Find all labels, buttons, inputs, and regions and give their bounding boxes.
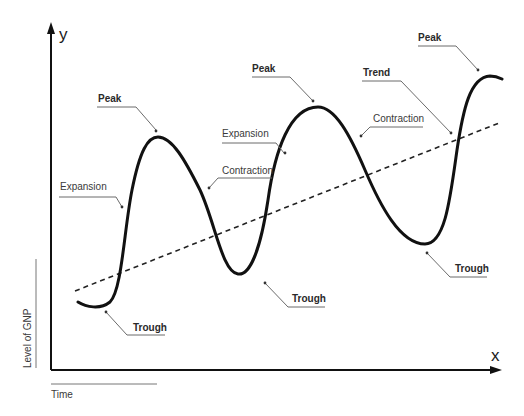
expansion-1-leader [59,197,122,207]
peak-2-label: Peak [252,63,276,74]
expansion-2-leader [222,143,284,153]
contraction-1-leader [209,178,272,188]
trend-line [75,123,499,291]
peak-1-leader [97,107,156,130]
expansion-1-label: Expansion [60,181,107,192]
contraction-2-label: Contraction [373,113,424,124]
x-axis-label: Time [51,389,73,400]
peak-3-marker [477,69,480,72]
trough-1-marker [105,311,108,314]
peak-3-label: Peak [418,32,442,43]
expansion-1-marker [121,206,124,209]
trough-3-label: Trough [455,263,489,274]
peak-2-marker [312,100,315,103]
gnp-cycle-curve [78,76,502,307]
peak-1-label: Peak [98,93,122,104]
contraction-2-leader [361,127,423,136]
contraction-1-label: Contraction [222,165,273,176]
y-axis-letter: y [59,25,68,44]
expansion-2-label: Expansion [222,128,269,139]
trough-2-marker [264,282,267,285]
x-axis-arrow-icon [490,366,502,374]
peak-3-leader [418,46,478,70]
expansion-2-marker [284,152,287,155]
trend-leader [362,81,451,133]
y-axis-label: Level of GNP [22,308,33,368]
peak-2-leader [252,77,313,101]
contraction-2-marker [360,135,363,138]
trough-1-label: Trough [133,322,167,333]
trend-marker [450,132,453,135]
y-axis-arrow-icon [47,22,55,34]
trend-label: Trend [363,67,390,78]
trough-2-label: Trough [292,293,326,304]
contraction-1-marker [208,187,211,190]
x-axis-letter: x [491,346,500,365]
trough-3-marker [426,252,429,255]
peak-1-marker [155,130,158,133]
business-cycle-diagram: y x Level of GNP Time Peak Expansion Con… [0,0,524,416]
